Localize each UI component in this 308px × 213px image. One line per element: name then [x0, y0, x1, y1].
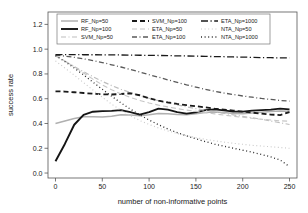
series-line-eta-np-1000 — [55, 55, 289, 58]
series-line-nta-np-50 — [55, 61, 289, 148]
x-tick-label: 150 — [190, 183, 202, 190]
legend-label-rf-np-100: RF_Np=100 — [81, 26, 111, 32]
legend-label-nta-np-1000: NTA_Np=1000 — [221, 34, 258, 40]
legend-label-svm-np-50: SVM_Np=50 — [81, 34, 113, 40]
legend-label-rf-np-50: RF_Np=50 — [81, 18, 108, 24]
legend-label-eta-np-50: ETA_Np=50 — [152, 26, 182, 32]
x-axis-ticks: 050100150200250 — [54, 178, 296, 190]
x-tick-label: 0 — [54, 183, 58, 190]
y-tick-label: 0.8 — [33, 70, 43, 77]
legend-label-nta-np-50: NTA_Np=50 — [221, 26, 252, 32]
y-axis-label: success rate — [6, 74, 15, 116]
chart-legend: RF_Np=50RF_Np=100SVM_Np=50SVM_Np=100ETA_… — [57, 14, 270, 44]
x-axis-label: number of non-informative points — [118, 197, 228, 206]
y-tick-label: 0.4 — [33, 120, 43, 127]
x-tick-label: 250 — [284, 183, 296, 190]
y-tick-label: 1.0 — [33, 46, 43, 53]
legend-label-eta-np-1000: ETA_Np=1000 — [221, 18, 257, 24]
x-tick-label: 50 — [98, 183, 106, 190]
y-tick-label: 0.0 — [33, 170, 43, 177]
y-tick-label: 0.2 — [33, 145, 43, 152]
y-axis-ticks: 0.00.20.40.60.81.01.2 — [33, 21, 48, 177]
x-tick-label: 200 — [237, 183, 249, 190]
line-chart: 0.00.20.40.60.81.01.2 050100150200250 nu… — [0, 0, 308, 213]
x-tick-label: 100 — [143, 183, 155, 190]
legend-label-svm-np-100: SVM_Np=100 — [152, 18, 187, 24]
y-tick-label: 0.6 — [33, 95, 43, 102]
y-tick-label: 1.2 — [33, 21, 43, 28]
chart-figure: 0.00.20.40.60.81.01.2 050100150200250 nu… — [0, 0, 308, 213]
legend-label-eta-np-100: ETA_Np=100 — [152, 34, 185, 40]
series-group — [55, 55, 289, 167]
